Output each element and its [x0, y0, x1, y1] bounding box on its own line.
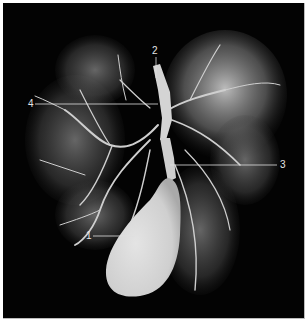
anatomical-figure: 1 2 3 4: [0, 0, 307, 321]
label-4: 4: [28, 99, 34, 109]
label-1: 1: [86, 231, 92, 241]
right-lobe-ductules: [160, 30, 287, 295]
label-3: 3: [280, 160, 286, 170]
label-2: 2: [152, 46, 158, 56]
cystic-duct: [160, 138, 176, 182]
